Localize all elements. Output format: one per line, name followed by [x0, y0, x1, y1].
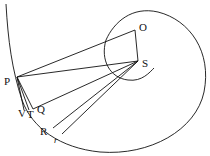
- segment-rS: [62, 61, 138, 134]
- orbit-curve: [6, 4, 206, 152]
- geometry-figure: [0, 0, 210, 156]
- diagram-canvas: P O S V T Q R r: [0, 0, 210, 156]
- segment-PO: [17, 30, 135, 77]
- label-Q: Q: [37, 104, 45, 115]
- label-r: r: [54, 136, 58, 145]
- label-T: T: [27, 109, 34, 120]
- label-O: O: [139, 22, 147, 33]
- label-R: R: [40, 126, 47, 137]
- label-V: V: [18, 108, 26, 119]
- segment-OS: [135, 30, 138, 61]
- label-S: S: [142, 58, 148, 69]
- label-P: P: [4, 76, 10, 87]
